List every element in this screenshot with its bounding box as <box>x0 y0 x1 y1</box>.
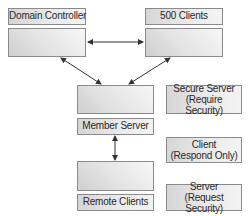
arrow-clients-to-member <box>129 58 170 84</box>
connection-arrows <box>0 0 249 216</box>
arrow-dc-to-member <box>61 58 101 84</box>
network-diagram: Domain Controller 500 Clients Member Ser… <box>0 0 249 216</box>
